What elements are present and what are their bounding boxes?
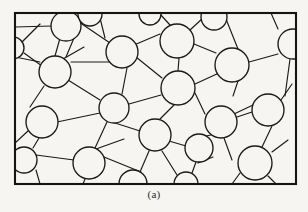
grain-circle [26, 106, 58, 138]
grain-circle [205, 106, 237, 138]
grain-circle [106, 36, 138, 68]
grain-circle [252, 94, 284, 126]
grain-circle [139, 119, 171, 151]
grain-circle [161, 71, 195, 105]
grain-circle [215, 48, 249, 82]
grain-circle [73, 147, 105, 179]
grain-circle [99, 93, 129, 123]
grain-circle [39, 56, 71, 88]
grain-circle [238, 146, 272, 180]
microstructure-diagram [0, 0, 308, 212]
grain-circle [51, 11, 81, 41]
figure-root: (a) [0, 0, 308, 212]
figure-caption: (a) [0, 188, 308, 200]
grain-circle [185, 134, 213, 162]
grain-circle [160, 24, 194, 58]
